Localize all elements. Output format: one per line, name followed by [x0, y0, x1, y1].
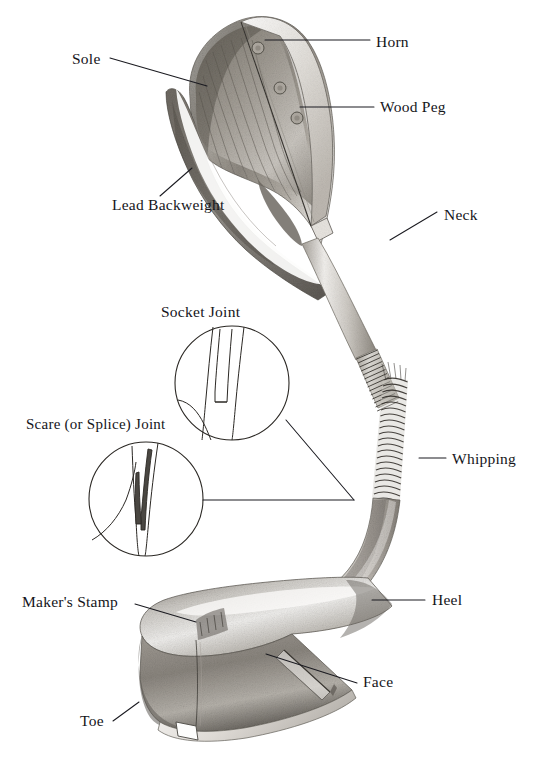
leader-line-socket-joint [286, 420, 354, 500]
golf-club-anatomy-diagram: Horn Sole Wood Peg Lead Backweight Neck … [0, 0, 547, 761]
label-whipping: Whipping [452, 451, 516, 467]
lower-club-head-illustration [139, 577, 392, 741]
leader-line-toe [113, 702, 139, 721]
label-heel: Heel [432, 592, 462, 608]
label-toe: Toe [80, 713, 104, 729]
socket-joint-detail [175, 326, 289, 440]
label-lead-backweight: Lead Backweight [112, 197, 225, 213]
neck-shape [302, 238, 376, 360]
label-sole: Sole [72, 51, 101, 67]
label-scare-joint: Scare (or Splice) Joint [26, 417, 165, 432]
leader-line-neck [390, 212, 437, 240]
label-makers-stamp: Maker's Stamp [22, 594, 118, 610]
leader-line-lead-backweight [160, 168, 192, 196]
label-wood-peg: Wood Peg [380, 99, 446, 115]
label-face: Face [363, 674, 393, 690]
label-horn: Horn [376, 34, 409, 50]
illustration-artwork [0, 0, 547, 761]
label-socket-joint: Socket Joint [161, 304, 240, 320]
scare-joint-detail [89, 442, 203, 556]
label-neck: Neck [444, 207, 478, 223]
detail-circle-group [89, 326, 289, 556]
